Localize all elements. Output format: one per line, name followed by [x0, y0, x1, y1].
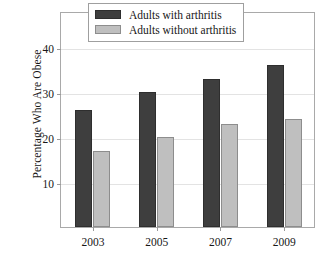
bar-2003-with-arthritis — [75, 110, 92, 227]
x-tick-label-2009: 2009 — [273, 236, 296, 248]
legend-label-with-arthritis: Adults with arthritis — [129, 9, 222, 21]
bar-2005-without-arthritis — [157, 137, 174, 227]
legend-swatch-with-arthritis — [95, 10, 121, 19]
x-tick-mark — [93, 227, 94, 231]
bar-2007-with-arthritis — [203, 79, 220, 228]
y-tick-mark — [57, 49, 61, 50]
bar-2009-with-arthritis — [267, 65, 284, 227]
bar-2005-with-arthritis — [139, 92, 156, 227]
y-gridline — [61, 49, 314, 50]
y-tick-label: 20 — [43, 133, 55, 145]
x-tick-label-2005: 2005 — [145, 236, 168, 248]
bar-2003-without-arthritis — [93, 151, 110, 228]
bar-2007-without-arthritis — [221, 124, 238, 228]
y-tick-mark — [57, 139, 61, 140]
legend-label-without-arthritis: Adults without arthritis — [129, 24, 236, 36]
x-tick-label-2007: 2007 — [209, 236, 232, 248]
plot-area: 102030402003200520072009 — [61, 13, 314, 227]
y-tick-label: 30 — [43, 88, 55, 100]
legend-item-with-arthritis: Adults with arthritis — [95, 7, 236, 22]
y-axis-title: Percentage Who Are Obese — [31, 9, 43, 219]
x-tick-mark — [157, 227, 158, 231]
x-tick-mark — [284, 227, 285, 231]
x-tick-label-2003: 2003 — [81, 236, 104, 248]
y-tick-label: 40 — [43, 43, 55, 55]
legend-swatch-without-arthritis — [95, 25, 121, 34]
bar-2009-without-arthritis — [285, 119, 302, 227]
x-tick-mark — [220, 227, 221, 231]
y-tick-label: 10 — [43, 178, 55, 190]
y-tick-mark — [57, 94, 61, 95]
bar-chart: Percentage Who Are Obese 102030402003200… — [0, 0, 333, 262]
y-tick-mark — [57, 184, 61, 185]
legend-item-without-arthritis: Adults without arthritis — [95, 22, 236, 37]
plot-frame: 102030402003200520072009 — [60, 12, 315, 228]
chart-legend: Adults with arthritis Adults without art… — [88, 3, 244, 42]
